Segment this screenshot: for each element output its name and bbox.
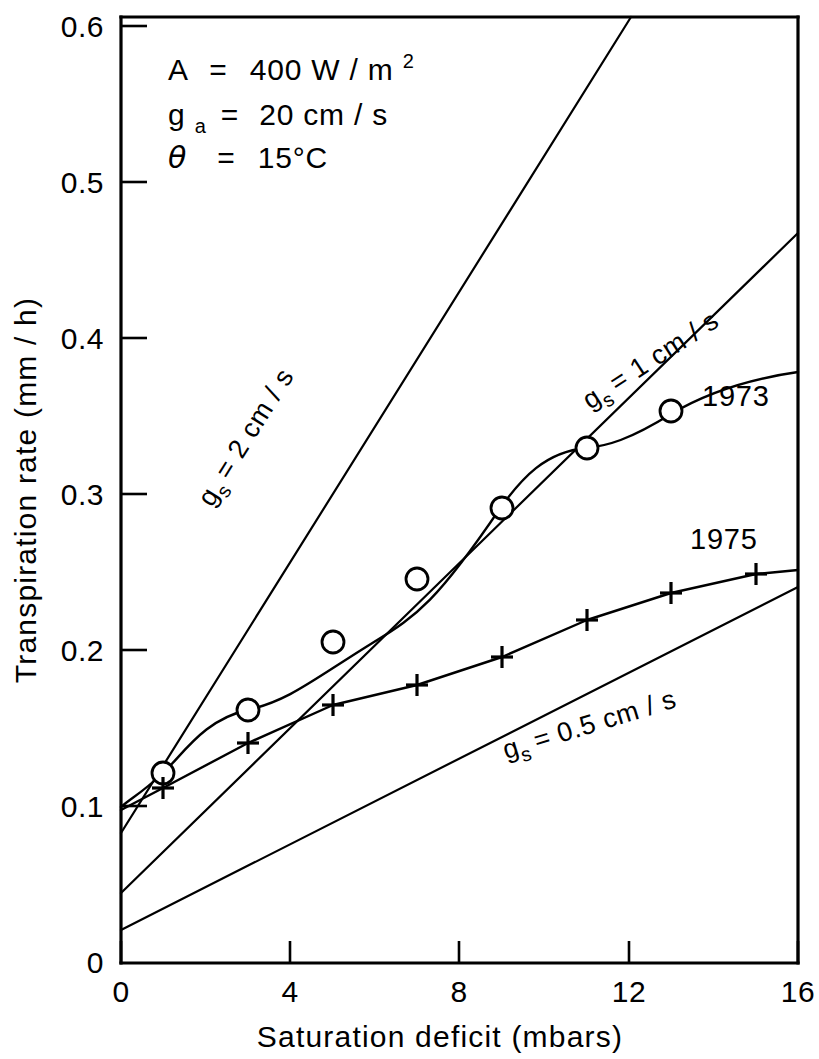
data-point-1973	[322, 631, 344, 653]
x-axis-ticks	[121, 941, 798, 963]
annotation-boundary-conductance: g a = 20 cm / s	[168, 98, 388, 139]
markers-1975	[152, 563, 767, 799]
y-tick-label-5: 0.5	[61, 166, 104, 199]
annotation-theta-symbol: θ	[168, 140, 187, 175]
curve-label-gs-2: gs= 2 cm / s	[192, 363, 305, 514]
curve-label-gs-0p5: gs= 0.5 cm / s	[499, 684, 681, 771]
annotation-ga-equals: =	[221, 98, 239, 131]
data-point-1975	[660, 582, 682, 604]
annotation-irradiance-symbol: A	[168, 53, 188, 86]
y-tick-label-4: 0.4	[61, 322, 104, 355]
curve-label-gs-0p5-rest: = 0.5 cm / s	[530, 684, 680, 756]
data-point-1975	[237, 732, 259, 754]
line-gs-0p5	[121, 587, 798, 930]
annotation-irradiance: A = 400 W / m 2	[168, 50, 415, 86]
series-label-1975: 1975	[690, 523, 758, 555]
data-point-1975	[576, 609, 598, 631]
annotation-theta-value: 15°C	[258, 141, 328, 174]
curve-1975	[121, 570, 798, 810]
data-point-1975	[745, 563, 767, 585]
figure-container: 0.6 0.5 0.4 0.3 0.2 0.1 0 0 4 8 12 16 Tr…	[0, 0, 819, 1059]
annotation-irradiance-value: 400 W / m	[250, 53, 394, 86]
data-point-1973	[491, 497, 513, 519]
x-tick-label-8: 8	[450, 975, 467, 1008]
annotation-ga-symbol: g	[168, 98, 186, 131]
curve-label-gs-2-rest: = 2 cm / s	[209, 363, 300, 484]
data-point-1973	[660, 400, 682, 422]
x-tick-label-12: 12	[612, 975, 646, 1008]
y-axis-title: Transpiration rate (mm / h)	[9, 297, 42, 683]
series-label-1973: 1973	[702, 380, 770, 412]
annotation-ga-subscript: a	[195, 115, 207, 137]
data-point-1975	[491, 646, 513, 668]
data-point-1973	[406, 568, 428, 590]
data-point-1975	[406, 674, 428, 696]
data-point-1973	[576, 437, 598, 459]
curve-1973	[121, 372, 798, 807]
transpiration-rate-chart: 0.6 0.5 0.4 0.3 0.2 0.1 0 0 4 8 12 16 Tr…	[0, 0, 819, 1059]
annotation-irradiance-equals: =	[209, 53, 227, 86]
annotation-theta-equals: =	[217, 141, 235, 174]
curve-label-gs-0p5-subscript: s	[518, 742, 535, 766]
annotation-ga-value: 20 cm / s	[259, 98, 388, 131]
y-tick-label-2: 0.2	[61, 634, 104, 667]
y-tick-label-3: 0.3	[61, 478, 104, 511]
x-tick-label-16: 16	[781, 975, 815, 1008]
x-axis-title: Saturation deficit (mbars)	[257, 1020, 623, 1053]
y-axis-ticks	[121, 26, 147, 806]
y-tick-label-0: 0	[87, 946, 104, 979]
y-tick-label-6: 0.6	[61, 10, 104, 43]
data-point-1973	[237, 699, 259, 721]
data-point-1975	[322, 694, 344, 716]
y-axis-tick-labels: 0.6 0.5 0.4 0.3 0.2 0.1 0	[61, 10, 104, 979]
y-tick-label-1: 0.1	[61, 790, 104, 823]
x-tick-label-0: 0	[112, 975, 129, 1008]
x-axis-tick-labels: 0 4 8 12 16	[112, 975, 815, 1008]
annotation-temperature: θ = 15°C	[168, 140, 328, 175]
annotation-irradiance-exponent: 2	[403, 50, 415, 72]
parameter-annotations: A = 400 W / m 2 g a = 20 cm / s θ = 15°C	[168, 50, 415, 175]
x-tick-label-4: 4	[281, 975, 298, 1008]
